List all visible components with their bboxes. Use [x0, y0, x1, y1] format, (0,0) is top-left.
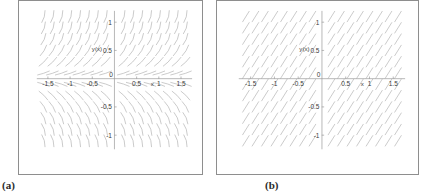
svg-text:-0.5: -0.5: [87, 80, 99, 87]
slope-field-plot-a: -1.5-1-0.500.511.5x-1-0.50.51y(x): [19, 1, 202, 174]
svg-text:-1: -1: [67, 80, 73, 87]
panel-a-caption: (a): [2, 179, 15, 191]
svg-text:-1: -1: [314, 132, 320, 139]
panel-b-caption: (b): [265, 179, 278, 191]
svg-text:-0.5: -0.5: [101, 103, 113, 110]
svg-text:-0.5: -0.5: [293, 80, 305, 87]
panel-b: -1.5-1-0.500.511.5x-1-0.50.51y(x): [216, 0, 419, 175]
svg-text:-1: -1: [106, 132, 112, 139]
figure-slope-fields: -1.5-1-0.500.511.5x-1-0.50.51y(x) -1.5-1…: [0, 0, 437, 195]
svg-text:-1: -1: [272, 80, 278, 87]
svg-text:x: x: [361, 80, 364, 87]
svg-text:1: 1: [108, 19, 112, 26]
svg-text:1: 1: [368, 80, 372, 87]
svg-text:-0.5: -0.5: [308, 103, 320, 110]
svg-text:y(x): y(x): [92, 45, 102, 52]
svg-text:1: 1: [157, 80, 161, 87]
svg-text:1.5: 1.5: [389, 80, 398, 87]
svg-text:0.5: 0.5: [103, 47, 112, 54]
svg-text:0.5: 0.5: [310, 47, 319, 54]
slope-field-plot-b: -1.5-1-0.500.511.5x-1-0.50.51y(x): [217, 1, 418, 174]
svg-text:1.5: 1.5: [176, 80, 185, 87]
svg-text:0.5: 0.5: [341, 80, 350, 87]
svg-text:-1.5: -1.5: [245, 80, 257, 87]
svg-text:1: 1: [316, 19, 320, 26]
svg-text:y(x): y(x): [299, 45, 309, 52]
svg-text:-1.5: -1.5: [42, 80, 54, 87]
svg-text:0: 0: [317, 71, 321, 78]
panel-a: -1.5-1-0.500.511.5x-1-0.50.51y(x): [18, 0, 203, 175]
svg-text:0: 0: [109, 71, 113, 78]
svg-text:0.5: 0.5: [132, 80, 141, 87]
svg-text:x: x: [151, 80, 154, 87]
